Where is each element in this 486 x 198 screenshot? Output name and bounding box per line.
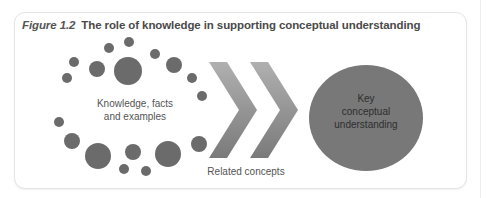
knowledge-dot [85, 143, 111, 169]
key-understanding-circle [309, 65, 423, 171]
key-label-line2: conceptual [342, 106, 390, 117]
chevron-arrow-icon [209, 62, 257, 158]
knowledge-dot [187, 73, 197, 83]
knowledge-dot [166, 57, 182, 73]
knowledge-dot [125, 144, 141, 160]
knowledge-dot [54, 117, 64, 127]
knowledge-dot [155, 141, 181, 167]
key-label-line3: understanding [334, 119, 397, 130]
related-concepts-label: Related concepts [207, 166, 284, 177]
knowledge-dot [197, 91, 207, 101]
diagram: Knowledge, facts and examples Related co… [0, 0, 486, 198]
knowledge-dot [124, 37, 134, 47]
knowledge-dot [89, 61, 105, 77]
knowledge-dot [119, 164, 129, 174]
knowledge-dot [104, 43, 114, 53]
knowledge-label-line1: Knowledge, facts [97, 98, 173, 109]
knowledge-dot [150, 49, 160, 59]
key-label-line1: Key [357, 93, 374, 104]
knowledge-dot [69, 57, 79, 67]
knowledge-dot [64, 133, 80, 149]
knowledge-dot [62, 73, 72, 83]
knowledge-dot [114, 57, 142, 85]
chevron-arrow-icon [250, 62, 298, 158]
knowledge-dot [141, 166, 151, 176]
knowledge-dot [191, 136, 207, 152]
knowledge-label-line2: and examples [104, 111, 166, 122]
